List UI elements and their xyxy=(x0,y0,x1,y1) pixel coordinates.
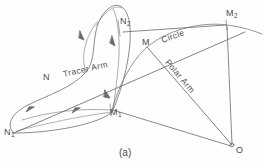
point-label-m1: M1 xyxy=(110,108,122,117)
circle-arc-path xyxy=(112,24,262,110)
flow-arrow-icon xyxy=(26,107,34,112)
point-label-m: M xyxy=(142,38,150,47)
point-label-o: O xyxy=(236,146,243,155)
link-m1-o-line xyxy=(113,110,231,146)
diagram-canvas xyxy=(0,0,263,167)
flow-arrow-icon xyxy=(72,108,80,113)
cam-inner-contour-bottom-2 xyxy=(16,112,112,131)
flow-arrow-icon xyxy=(79,31,84,40)
flow-arrow-icon xyxy=(110,36,115,46)
figure-caption: (a) xyxy=(119,148,131,158)
point-label-n1: N1 xyxy=(4,128,15,137)
point-label-n2: N2 xyxy=(120,17,131,26)
polar-arm-line xyxy=(147,47,232,145)
figure-container: N1 N N2 M1 M M2 O Tracer Arm Polar Arm C… xyxy=(0,0,263,167)
tick-m2-vertical xyxy=(226,20,227,30)
cam-inner-contour-bottom xyxy=(22,109,110,120)
link-m2-o-line xyxy=(227,26,232,144)
point-label-n: N xyxy=(43,73,50,82)
point-label-m2: M2 xyxy=(226,9,238,18)
